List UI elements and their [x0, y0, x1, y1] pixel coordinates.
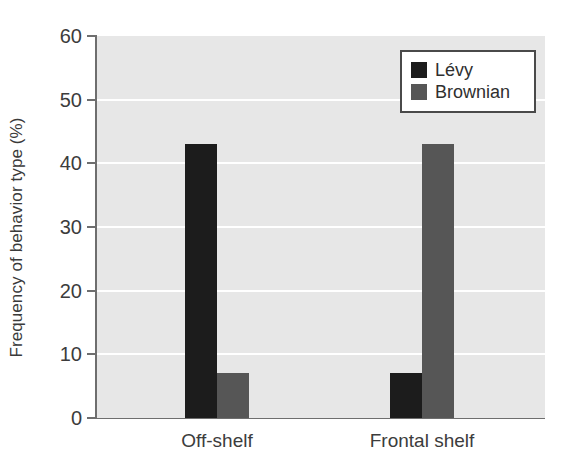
y-axis-tick-label: 20 [20, 279, 82, 302]
bar-frontal-shelf-levy [390, 373, 422, 418]
bar-chart-figure: Frequency of behavior type (%) 010203040… [0, 0, 571, 475]
y-axis-tick-mark [87, 353, 96, 355]
y-axis-tick-label: 60 [20, 25, 82, 48]
y-axis-tick-mark [87, 35, 96, 37]
bar-off-shelf-levy [185, 144, 217, 418]
bar-off-shelf-brownian [217, 373, 249, 418]
x-axis-tick-label: Frontal shelf [370, 430, 475, 452]
legend-swatch-brownian-icon [411, 84, 427, 100]
y-axis-tick-label: 50 [20, 88, 82, 111]
y-axis-tick-mark [87, 290, 96, 292]
y-axis-tick-mark [87, 99, 96, 101]
legend: Lévy Brownian [400, 50, 536, 113]
gridline [97, 226, 545, 228]
legend-label-levy: Lévy [435, 60, 473, 80]
legend-swatch-levy-icon [411, 62, 427, 78]
y-axis-tick-mark [87, 226, 96, 228]
y-axis-tick-mark [87, 162, 96, 164]
y-axis-tick-label: 40 [20, 152, 82, 175]
y-axis-tick-label: 0 [20, 407, 82, 430]
y-axis-tick-label: 30 [20, 216, 82, 239]
y-axis-tick-mark [87, 417, 96, 419]
legend-label-brownian: Brownian [435, 82, 510, 102]
gridline [97, 162, 545, 164]
gridline [97, 290, 545, 292]
y-axis-tick-label: 10 [20, 343, 82, 366]
x-axis-tick-label: Off-shelf [181, 430, 252, 452]
legend-item-brownian: Brownian [411, 81, 525, 103]
gridline [97, 353, 545, 355]
bar-frontal-shelf-brownian [422, 144, 454, 418]
legend-item-levy: Lévy [411, 59, 525, 81]
